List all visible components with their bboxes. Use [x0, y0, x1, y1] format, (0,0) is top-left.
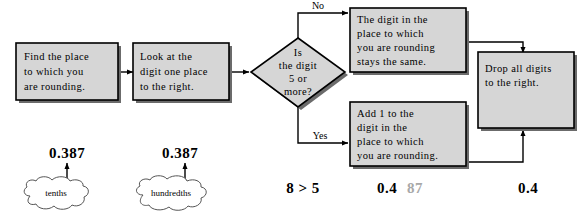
step-add-one: Add 1 to the digit in the place to which… — [350, 102, 469, 169]
add-one-line-1: Add 1 to the — [357, 108, 414, 119]
step-look-digit: Look at the digit one place to the right… — [133, 43, 232, 103]
annotation-rounded-with-dropped: 0.4 87 — [377, 180, 423, 196]
add-one-line-3: place to which — [357, 136, 424, 147]
branch-label-yes: Yes — [313, 130, 328, 141]
find-place-line-2: to which you — [24, 66, 84, 77]
branch-label-no: No — [312, 0, 324, 11]
decision-line-4: more? — [284, 86, 312, 97]
drop-digits-line-2: to the right. — [485, 77, 539, 88]
decision-line-3: 5 or — [289, 73, 307, 84]
step-find-place: Find the place to which you are rounding… — [16, 43, 121, 103]
callout-hundredths: 0.387 hundredths — [136, 145, 206, 210]
add-one-line-4: you are rounding. — [357, 150, 438, 161]
stays-same-line-2: place to which — [357, 28, 424, 39]
step-stays-same: The digit in the place to which you are … — [350, 8, 469, 75]
look-digit-line-1: Look at the — [140, 51, 192, 62]
look-digit-line-2: digit one place — [140, 66, 208, 77]
drop-digits-line-1: Drop all digits — [485, 63, 552, 74]
flowchart-page: Find the place to which you are rounding… — [0, 0, 586, 220]
annotation-comparison: 8 > 5 — [286, 180, 320, 196]
find-place-line-1: Find the place — [24, 51, 89, 62]
decision-line-2: the digit — [279, 60, 317, 71]
look-digit-line-3: to the right. — [140, 81, 194, 92]
stays-same-line-4: stays the same. — [357, 56, 426, 67]
callout-tenths-label: tenths — [45, 188, 67, 198]
rounding-flowchart: Find the place to which you are rounding… — [0, 0, 586, 220]
annotation-final-answer: 0.4 — [518, 180, 538, 196]
stays-same-line-3: you are rounding — [357, 42, 435, 53]
annotation-rounded-dropped: 87 — [407, 180, 423, 196]
stays-same-line-1: The digit in the — [357, 14, 428, 25]
annotation-rounded-kept: 0.4 — [377, 180, 397, 196]
decision-line-1: Is — [294, 47, 302, 58]
connector-add-to-drop — [467, 130, 523, 162]
callout-tenths: 0.387 tenths — [24, 145, 88, 209]
callout-hundredths-label: hundredths — [151, 188, 191, 198]
connector-no-branch — [298, 13, 348, 38]
find-place-line-3: are rounding. — [24, 81, 85, 92]
add-one-line-2: digit in the — [357, 122, 407, 133]
step-drop-digits: Drop all digits to the right. — [478, 52, 577, 131]
callout-tenths-number: 0.387 — [49, 145, 85, 161]
decision-is-digit-5-or-more: Is the digit 5 or more? — [251, 38, 348, 110]
callout-hundredths-number: 0.387 — [162, 145, 198, 161]
